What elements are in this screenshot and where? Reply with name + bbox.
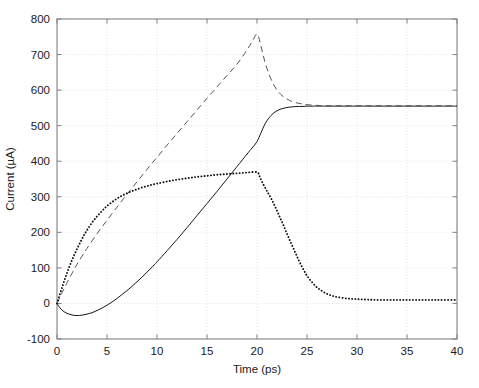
y-tick-label: 600 (31, 84, 50, 96)
series-dotted-curve (57, 172, 457, 303)
x-tick-label: 5 (104, 345, 110, 357)
x-tick-label: 35 (401, 345, 414, 357)
x-tick-label: 30 (351, 345, 364, 357)
x-tick-label: 10 (151, 345, 164, 357)
x-tick-label: 0 (54, 345, 60, 357)
x-tick-label: 15 (201, 345, 214, 357)
y-tick-label: 100 (31, 262, 50, 274)
y-tick-label: 200 (31, 226, 50, 238)
data-series (57, 34, 457, 316)
y-tick-label: 0 (44, 297, 50, 309)
y-tick-label: 700 (31, 49, 50, 61)
y-tick-label: 500 (31, 120, 50, 132)
chart-figure: 0510152025303540-10001002003004005006007… (0, 0, 479, 388)
y-tick-label: 400 (31, 155, 50, 167)
y-tick-label: -100 (27, 333, 50, 345)
x-tick-label: 40 (451, 345, 464, 357)
y-tick-label: 800 (31, 13, 50, 25)
x-axis-title: Time (ps) (233, 363, 281, 375)
y-tick-label: 300 (31, 191, 50, 203)
y-axis-title: Current (µA) (4, 147, 16, 211)
plot-canvas: 0510152025303540-10001002003004005006007… (0, 0, 479, 388)
tick-labels: 0510152025303540-10001002003004005006007… (27, 13, 463, 357)
x-tick-label: 25 (301, 345, 314, 357)
grid-lines (57, 19, 457, 339)
x-tick-label: 20 (251, 345, 264, 357)
